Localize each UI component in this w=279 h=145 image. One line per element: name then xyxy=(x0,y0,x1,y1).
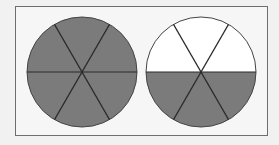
right-circle xyxy=(146,17,256,127)
left-circle xyxy=(27,17,137,127)
fraction-diagram xyxy=(0,0,279,145)
